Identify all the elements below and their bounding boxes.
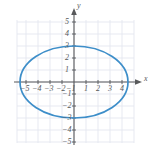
x-tick-label-3: 3 xyxy=(108,85,112,93)
x-tick-label-2: 2 xyxy=(96,85,100,93)
y-tick-label-neg2: −2 xyxy=(62,102,71,110)
chart-figure: −5 −4 −3 −2 −1 1 2 3 4 5 4 3 2 1 −1 −2 −… xyxy=(0,0,151,149)
y-tick-label-4: 4 xyxy=(65,30,69,38)
y-tick-label-neg1: −1 xyxy=(62,90,71,98)
y-tick-label-neg4: −4 xyxy=(62,126,71,134)
x-tick-label-4: 4 xyxy=(120,85,124,93)
y-tick-label-5: 5 xyxy=(65,18,69,26)
y-tick-label-2: 2 xyxy=(65,54,69,62)
x-axis-label: x xyxy=(144,75,148,83)
x-tick-label-neg3: −3 xyxy=(44,85,53,93)
x-tick-label-1: 1 xyxy=(84,85,88,93)
y-axis-label: y xyxy=(77,2,81,10)
x-tick-label-neg4: −4 xyxy=(32,85,41,93)
y-tick-label-1: 1 xyxy=(65,66,69,74)
y-tick-label-neg3: −3 xyxy=(62,114,71,122)
ellipse-plot xyxy=(0,0,151,149)
y-tick-label-3: 3 xyxy=(65,42,69,50)
y-tick-label-neg5: −5 xyxy=(62,138,71,146)
x-tick-label-neg5: −5 xyxy=(20,85,29,93)
